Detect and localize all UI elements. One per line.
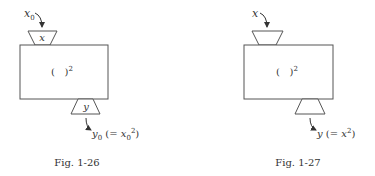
output-funnel (295, 99, 325, 114)
input-funnel-label: x (39, 32, 45, 43)
figure-1-26: x0 x ( )2 y y0 (= x02) Fig. 1-26 (20, 7, 139, 168)
output-funnel-label: y (82, 101, 89, 112)
input-funnel (252, 31, 283, 45)
input-label-x0: x0 (24, 7, 35, 22)
output-arrow-icon (86, 118, 91, 130)
figure-1-27: x ( )2 y (= x2) Fig. 1-27 (244, 7, 355, 168)
input-arrow-icon (35, 13, 42, 27)
output-arrow-icon (310, 118, 316, 130)
function-machine-diagrams: x0 x ( )2 y y0 (= x02) Fig. 1-26 x ( )2 … (0, 0, 375, 176)
input-label-x: x (252, 7, 259, 20)
figure-caption: Fig. 1-26 (54, 157, 99, 168)
input-arrow-icon (260, 13, 267, 27)
output-label: y (= x2) (316, 127, 355, 139)
figure-caption: Fig. 1-27 (275, 157, 320, 168)
output-label: y0 (= x02) (91, 127, 139, 142)
